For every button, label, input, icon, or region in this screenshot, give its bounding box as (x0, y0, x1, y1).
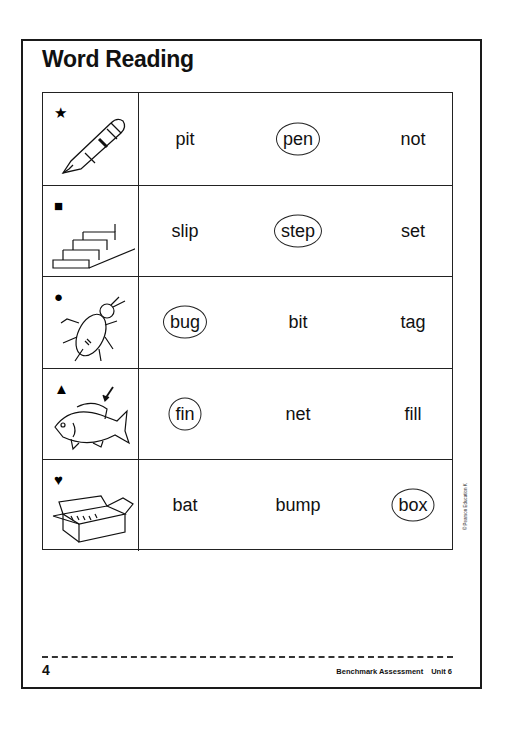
picture-cell: ♥ (43, 460, 139, 551)
footer-divider (42, 656, 453, 658)
unit-label: Unit 6 (431, 667, 452, 676)
table-row: ● bug bit tag (43, 276, 452, 368)
assessment-name: Benchmark Assessment (336, 667, 423, 676)
word-option[interactable]: not (392, 124, 433, 153)
word-option[interactable]: bat (164, 491, 205, 520)
word-option-circled[interactable]: bug (163, 306, 207, 339)
word-option[interactable]: bump (267, 491, 328, 520)
pen-icon (49, 109, 135, 181)
picture-cell: ★ (43, 93, 139, 185)
picture-cell: ● (43, 277, 139, 368)
table-row: ■ slip step set (43, 185, 452, 277)
picture-cell: ▲ (43, 369, 139, 460)
word-option-circled[interactable]: box (391, 489, 434, 522)
word-option[interactable]: fill (397, 399, 430, 428)
bug-icon (49, 293, 135, 365)
table-row: ▲ fin net fill (43, 368, 452, 460)
word-option[interactable]: net (277, 399, 318, 428)
word-option[interactable]: tag (392, 308, 433, 337)
page-title: Word Reading (42, 46, 194, 73)
word-reading-table: ★ pit pen not ■ (42, 92, 453, 550)
page-number: 4 (42, 662, 50, 678)
word-option[interactable]: slip (163, 216, 206, 245)
steps-icon (49, 202, 135, 274)
copyright-notice: © Pearson Education K (463, 483, 468, 530)
footer-label: Benchmark AssessmentUnit 6 (336, 667, 452, 676)
fish-icon (49, 385, 135, 457)
table-row: ♥ bat bump box (43, 459, 452, 551)
word-option[interactable]: bit (280, 308, 315, 337)
table-row: ★ pit pen not (43, 93, 452, 185)
word-option-circled[interactable]: pen (276, 122, 320, 155)
picture-cell: ■ (43, 186, 139, 277)
word-option[interactable]: set (393, 216, 433, 245)
box-icon (49, 476, 135, 548)
word-option-circled[interactable]: step (274, 214, 322, 247)
word-option[interactable]: pit (167, 124, 202, 153)
word-option-circled[interactable]: fin (168, 397, 201, 430)
